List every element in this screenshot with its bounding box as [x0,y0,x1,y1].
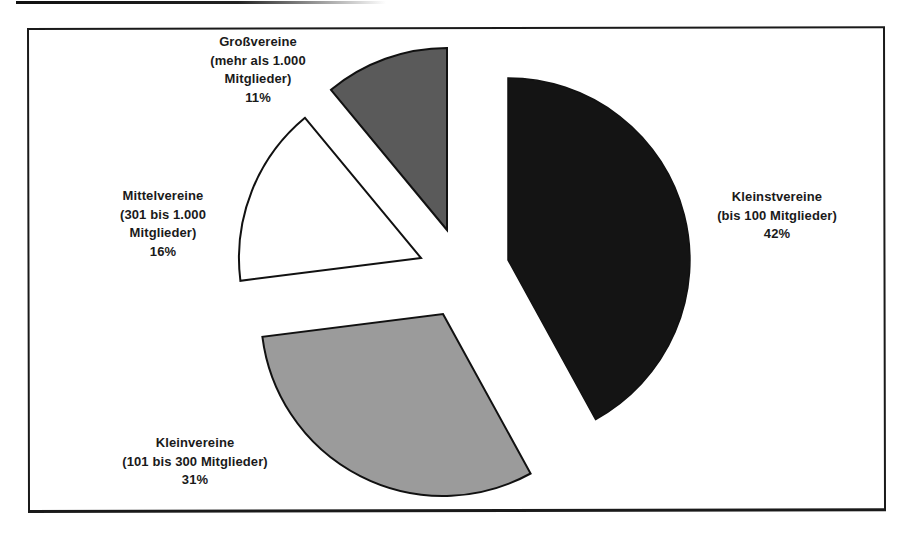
label-grossvereine-detail-2: Mitglieder) [210,70,305,89]
slice-kleinvereine [262,314,530,496]
label-mittelvereine-name: Mittelvereine [120,187,206,206]
label-kleinstvereine: Kleinstvereine (bis 100 Mitglieder) 42% [717,188,837,244]
label-kleinvereine-value: 31% [122,471,267,490]
label-mittelvereine-detail-1: (301 bis 1.000 [120,206,206,225]
label-mittelvereine: Mittelvereine (301 bis 1.000 Mitglieder)… [120,187,206,261]
label-grossvereine: Großvereine (mehr als 1.000 Mitglieder) … [210,33,305,107]
label-grossvereine-name: Großvereine [210,33,305,52]
label-mittelvereine-value: 16% [120,243,206,262]
label-mittelvereine-detail-2: Mitglieder) [120,224,206,243]
slice-kleinstvereine [508,78,690,420]
label-kleinvereine-detail: (101 bis 300 Mitglieder) [122,453,267,472]
label-kleinvereine: Kleinvereine (101 bis 300 Mitglieder) 31… [122,434,267,490]
label-grossvereine-detail-1: (mehr als 1.000 [210,52,305,71]
label-kleinvereine-name: Kleinvereine [122,434,267,453]
label-kleinstvereine-value: 42% [717,225,837,244]
label-kleinstvereine-name: Kleinstvereine [717,188,837,207]
label-kleinstvereine-detail: (bis 100 Mitglieder) [717,207,837,226]
label-grossvereine-value: 11% [210,89,305,108]
